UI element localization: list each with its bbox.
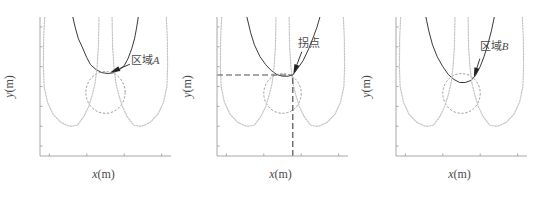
panel-a: x(m)y(m)区域A <box>2 17 171 181</box>
y-axis-label: y(m) <box>180 75 194 99</box>
annotation-arrowhead-icon <box>293 64 299 74</box>
y-axis-label: y(m) <box>359 75 373 99</box>
annotation-arrow-shaft <box>477 59 480 68</box>
curve-3 <box>43 17 99 126</box>
x-axis-label: x(m) <box>268 167 292 181</box>
curve-3 <box>220 17 276 126</box>
annotation-label: 区域A <box>131 54 160 66</box>
y-axis-label: y(m) <box>2 75 16 99</box>
three-panel-trajectory-chart: x(m)y(m)区域A x(m)y(m)拐点 x(m)y(m)区域B <box>0 0 537 205</box>
annotation-label: 区域B <box>480 40 509 52</box>
annotation-label: 拐点 <box>298 36 320 49</box>
annotation-arrowhead-icon <box>474 67 480 77</box>
plot-area <box>217 17 345 156</box>
annotation-arrowhead-icon <box>110 66 120 72</box>
panel-b: x(m)y(m)拐点 <box>180 17 348 181</box>
figure: x(m)y(m)区域A x(m)y(m)拐点 x(m)y(m)区域B <box>0 0 537 205</box>
curve-3 <box>289 17 345 126</box>
x-axis-label: x(m) <box>447 167 471 181</box>
curve-2-circle <box>86 72 125 114</box>
plot-area <box>399 17 523 126</box>
panel-c: x(m)y(m)区域B <box>359 17 527 181</box>
plot-area <box>43 17 167 126</box>
x-axis-label: x(m) <box>91 167 115 181</box>
curve-3 <box>112 17 168 126</box>
